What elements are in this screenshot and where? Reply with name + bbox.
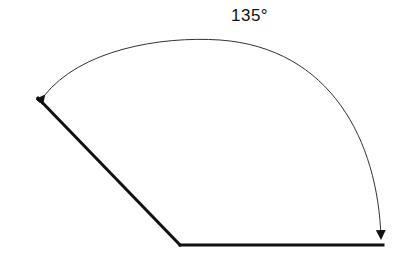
angle-arc-double-arrow [44,39,381,238]
slanted-ray [38,98,180,245]
angle-figure [0,0,409,280]
angle-label: 135° [231,6,268,26]
angle-diagram: 135° [0,0,409,280]
